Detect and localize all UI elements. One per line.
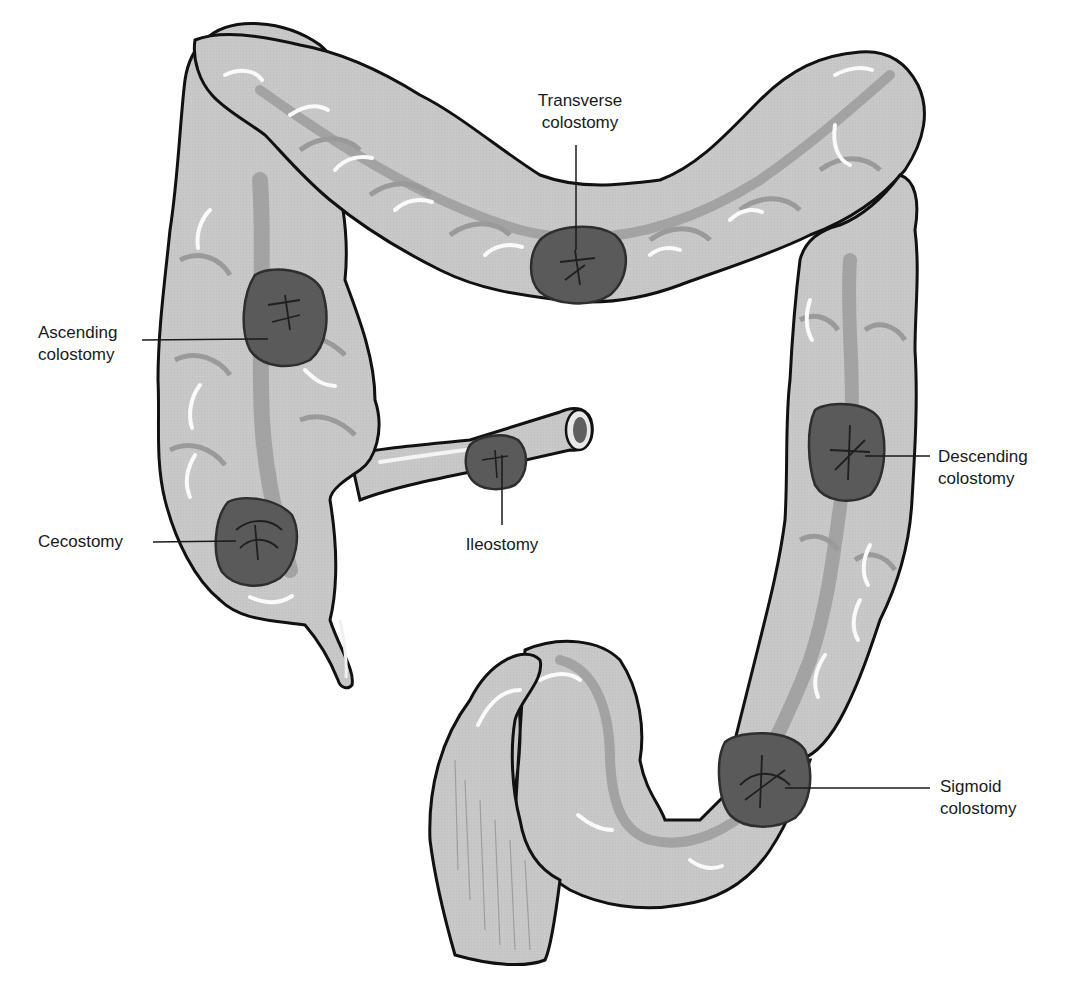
colon-diagram xyxy=(0,0,1076,993)
stoma-transverse xyxy=(531,227,626,304)
label-descending-colostomy: Descending colostomy xyxy=(938,446,1028,490)
label-ileostomy: Ileostomy xyxy=(450,534,554,556)
label-transverse-colostomy: Transverse colostomy xyxy=(520,90,640,134)
stoma-descending xyxy=(809,404,884,501)
stoma-ascending xyxy=(244,270,327,366)
stoma-ileostomy xyxy=(466,435,526,489)
stoma-sigmoid xyxy=(719,733,810,827)
stoma-cecostomy xyxy=(216,498,297,585)
label-sigmoid-colostomy: Sigmoid colostomy xyxy=(940,776,1017,820)
label-cecostomy: Cecostomy xyxy=(38,531,123,553)
leader-cecostomy xyxy=(153,541,236,542)
leader-ascending xyxy=(142,339,268,340)
label-ascending-colostomy: Ascending colostomy xyxy=(38,322,117,366)
